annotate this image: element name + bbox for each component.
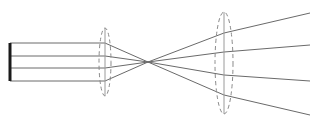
lens-1: [99, 28, 111, 96]
lens-2: [215, 12, 233, 114]
incoming-rays: [10, 43, 105, 81]
diverging-ray-2: [148, 52, 224, 62]
exit-ray-2: [224, 45, 310, 52]
exit-ray-1: [224, 13, 310, 33]
exit-ray-3: [224, 75, 310, 81]
diverging-ray-4: [148, 62, 224, 95]
diverging-rays: [148, 33, 224, 95]
exit-ray-4: [224, 95, 310, 115]
diverging-ray-1: [148, 33, 224, 62]
exit-rays: [224, 13, 310, 115]
optics-diagram: [0, 0, 315, 123]
diverging-ray-3: [148, 62, 224, 75]
